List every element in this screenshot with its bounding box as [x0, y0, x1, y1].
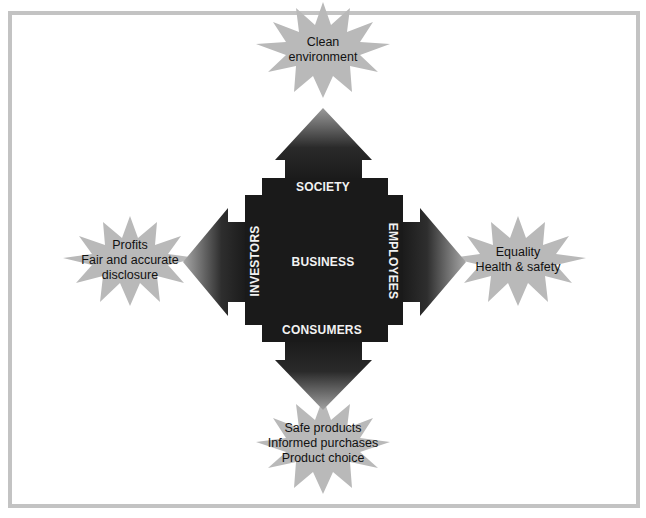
outcome-line: disclosure [81, 268, 178, 283]
outcome-line: Clean [289, 35, 358, 50]
outcome-line: Informed purchases [268, 436, 378, 451]
investors-outcomes: Profits Fair and accurate disclosure [81, 238, 178, 283]
arrow-left [183, 208, 247, 316]
society-outcomes: Clean environment [289, 35, 358, 65]
consumers-label: CONSUMERS [282, 323, 362, 337]
outcome-line: Safe products [268, 421, 378, 436]
outcome-line: Fair and accurate [81, 253, 178, 268]
investors-label: INVESTORS [248, 226, 262, 297]
outcome-line: Product choice [268, 451, 378, 466]
arrow-up [275, 108, 372, 180]
arrow-down [275, 340, 372, 410]
outcome-line: Equality [476, 245, 561, 260]
employees-outcomes: Equality Health & safety [476, 245, 561, 275]
arrow-right [401, 208, 466, 316]
society-label: SOCIETY [296, 180, 350, 194]
employees-label: EMPLOYEES [386, 223, 400, 299]
outcome-line: Profits [81, 238, 178, 253]
outcome-line: Health & safety [476, 260, 561, 275]
consumers-outcomes: Safe products Informed purchases Product… [268, 421, 378, 466]
outcome-line: environment [289, 50, 358, 65]
business-label: BUSINESS [292, 255, 355, 269]
